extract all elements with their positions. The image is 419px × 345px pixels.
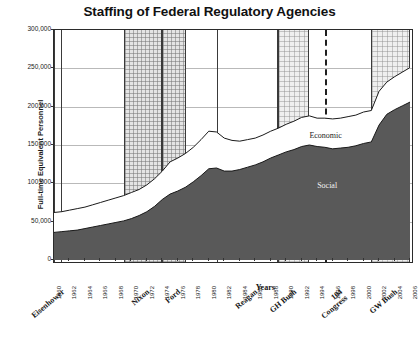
y-tick-label: 50,000 [3,217,51,224]
x-tick-mark [394,258,395,261]
era-label-gw-bush: GW Bush [368,288,399,316]
y-tick-label: 100,000 [3,178,51,185]
x-tick-mark [285,258,286,261]
x-tick-mark [409,258,410,261]
x-tick-mark [378,258,379,261]
y-tick-label: 0 [3,255,51,262]
era-label-ford: Ford [164,288,182,305]
x-axis-ticks: 1960196219641966196819701972197419761978… [53,262,411,288]
x-tick-mark [223,258,224,261]
era-labels: EisenhowerNixonFordReaganGH Bush104Congr… [0,288,419,345]
x-tick-mark [177,258,178,261]
era-label-nixon: Nixon [130,288,151,308]
x-tick-mark [53,258,54,261]
y-tick-label: 200,000 [3,102,51,109]
x-tick-mark [161,258,162,261]
y-tick-label: 250,000 [3,63,51,70]
chart-title: Staffing of Federal Regulatory Agencies [0,4,419,19]
chart-container: Staffing of Federal Regulatory Agencies … [0,0,419,345]
x-tick-mark [68,258,69,261]
y-tick-label: 150,000 [3,140,51,147]
x-tick-mark [254,258,255,261]
x-tick-mark [84,258,85,261]
x-tick-mark [347,258,348,261]
x-axis-label: Years [256,284,275,292]
series-label-economic: Economic [309,131,341,140]
x-tick-mark [363,258,364,261]
x-tick-mark [208,258,209,261]
x-tick-mark [130,258,131,261]
x-tick-mark [316,258,317,261]
x-tick-mark [239,258,240,261]
plot-area: EconomicSocial [53,29,413,263]
y-axis-ticks: 050,000100,000150,000200,000250,000300,0… [0,29,51,261]
y-tick-label: 300,000 [3,25,51,32]
x-tick-mark [192,258,193,261]
x-tick-mark [301,258,302,261]
x-tick-mark [270,258,271,261]
x-tick-mark [146,258,147,261]
era-label-104-congress: 104Congress [315,288,350,321]
x-tick-mark [115,258,116,261]
x-tick-mark [332,258,333,261]
era-label-eisenhower: Eisenhower [30,288,66,320]
x-tick-mark [99,258,100,261]
series-areas [54,30,410,260]
series-label-social: Social [317,181,337,190]
